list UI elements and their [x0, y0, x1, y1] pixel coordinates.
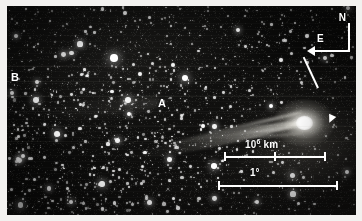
compass-east-label: E	[317, 34, 324, 44]
nucleus-pointer-arrow-icon	[317, 88, 351, 122]
compass-north-axis	[348, 23, 350, 52]
compass-east-axis	[309, 50, 350, 52]
scale-bar-angular-tick-left	[218, 181, 220, 190]
compass-north-label: N	[339, 13, 346, 23]
label-feature-a: A	[158, 98, 166, 109]
photographic-plate: A B N E 106 km 1	[7, 6, 356, 215]
compass-rose: N E	[307, 14, 356, 58]
scale-bar-linear-tick-right	[324, 152, 326, 161]
plate-scan-band	[7, 96, 356, 97]
scale-bar-angular-label: 1°	[250, 168, 260, 178]
plate-scan-band	[7, 111, 356, 112]
scale-bar-angular-line	[218, 185, 338, 187]
scale-bar-linear-tick-left	[224, 152, 226, 161]
scale-bar-linear-label: 106 km	[245, 138, 278, 150]
plate-scan-band	[7, 81, 356, 82]
scale-bar-angular-tick-right	[336, 181, 338, 190]
scale-bar-linear-tick-mid	[274, 152, 276, 161]
compass-east-arrowhead-icon	[307, 46, 315, 56]
plate-scan-band	[7, 126, 356, 127]
scale-bar-linear	[224, 152, 326, 161]
figure-container: A B N E 106 km 1	[0, 0, 362, 221]
plate-scan-band	[7, 66, 356, 67]
scale-bar-angular	[218, 181, 338, 190]
plate-scan-band	[7, 141, 356, 142]
